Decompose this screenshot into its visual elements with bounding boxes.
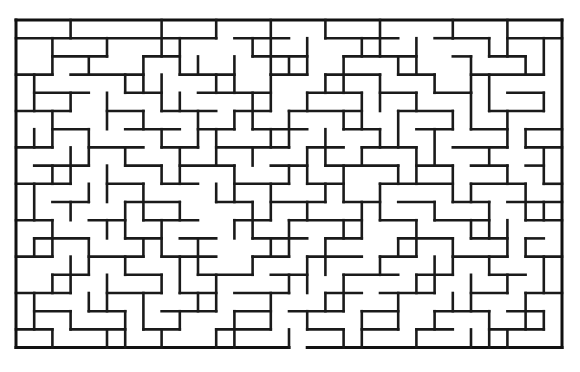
maze-container [0,0,580,372]
maze-canvas [0,0,580,372]
